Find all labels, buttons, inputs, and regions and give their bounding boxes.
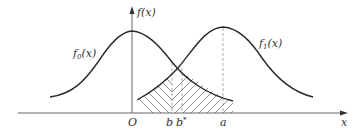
hatch-right-region: [144, 60, 284, 120]
tick-label-bstar: b*: [176, 116, 187, 129]
y-axis-label: f(x): [136, 6, 156, 19]
curve-f1-label: f1(x): [258, 37, 282, 51]
curve-f0-label: f0(x): [72, 47, 96, 61]
curve-f1: [137, 27, 313, 100]
origin-label: O: [128, 116, 137, 129]
tick-label-b: b: [166, 116, 173, 129]
density-diagram: f(x) f0(x) f1(x) O b b* a x: [0, 0, 361, 138]
y-axis-arrow-icon: [130, 6, 135, 14]
curve-f0: [50, 31, 233, 101]
hatch-left-region: [120, 56, 208, 120]
x-axis-label: x: [341, 116, 348, 129]
x-axis-arrow-icon: [340, 111, 348, 116]
tick-label-a: a: [220, 116, 227, 129]
